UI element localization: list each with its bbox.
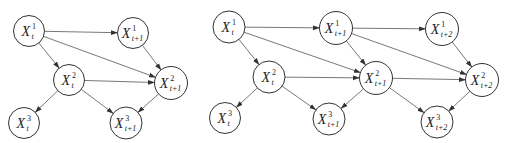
node-var-label: X — [61, 73, 71, 88]
node-x2-tplus1: X2t+1 — [360, 62, 393, 95]
node-group: X1tX1t+1X2tX2t+1X3tX3t+1 — [9, 16, 188, 140]
node-group: X1tX1t+1X1t+2X2tX2t+1X2t+2X3tX3t+1X3t+2 — [210, 11, 499, 138]
edge-b1-to-c1 — [353, 28, 426, 29]
dbn-diagrams: X1tX1t+1X2tX2t+1X3tX3t+1 X1tX1t+1X1t+2X2… — [0, 0, 506, 143]
node-x3-tplus1: X3t+1 — [110, 107, 142, 139]
node-var-label: X — [430, 22, 440, 37]
edge-c2-to-c3 — [449, 91, 470, 111]
edge-a2-to-a3 — [236, 88, 257, 108]
two-slice-dbn: X1tX1t+1X2tX2t+1X3tX3t+1 — [9, 16, 188, 140]
edge-a2-to-a3 — [35, 91, 58, 113]
edge-c1-to-c2 — [452, 42, 472, 67]
node-x1-tplus2: X1t+2 — [426, 13, 459, 46]
edge-a2-to-b3 — [81, 89, 113, 113]
node-var-label: X — [425, 115, 435, 130]
node-x3-tplus1: X3t+1 — [313, 103, 345, 135]
edge-a2-to-b2 — [285, 77, 360, 78]
node-x3-t: X3t — [210, 103, 241, 134]
edge-a1-to-b1 — [45, 31, 118, 32]
edge-b1-to-b2 — [142, 45, 161, 70]
node-superscript: 1 — [232, 18, 236, 27]
node-subscript: t+2 — [436, 123, 448, 132]
node-var-label: X — [21, 24, 31, 39]
node-subscript: t+1 — [125, 124, 137, 133]
node-subscript: t+1 — [328, 120, 340, 129]
node-var-label: X — [159, 76, 169, 91]
node-superscript: 3 — [125, 114, 129, 123]
edge-a2-to-b3 — [282, 86, 316, 110]
node-superscript: 2 — [170, 74, 174, 83]
node-x1-tplus1: X1t+1 — [320, 12, 353, 45]
node-var-label: X — [470, 73, 480, 88]
node-x2-t: X2t — [54, 65, 85, 96]
edge-b2-to-b3 — [138, 94, 159, 112]
three-slice-dbn: X1tX1t+1X1t+2X2tX2t+1X2t+2X3tX3t+1X3t+2 — [210, 11, 499, 138]
node-superscript: 2 — [72, 71, 76, 80]
node-superscript: 2 — [272, 68, 276, 77]
node-var-label: X — [364, 71, 374, 86]
node-superscript: 3 — [27, 114, 31, 123]
node-var-label: X — [121, 26, 131, 41]
node-superscript: 3 — [328, 110, 332, 119]
node-x3-t: X3t — [9, 108, 40, 139]
node-superscript: 1 — [32, 22, 36, 31]
node-var-label: X — [114, 116, 124, 131]
node-superscript: 2 — [375, 69, 379, 78]
edge-a1-to-a2 — [39, 43, 59, 68]
node-superscript: 1 — [335, 19, 339, 28]
node-var-label: X — [317, 112, 327, 127]
node-superscript: 3 — [436, 113, 440, 122]
edge-b2-to-b3 — [341, 89, 364, 109]
node-subscript: t+2 — [441, 30, 453, 39]
node-x1-t: X1t — [213, 11, 245, 43]
node-superscript: 2 — [481, 71, 485, 80]
node-x1-t: X1t — [14, 16, 45, 47]
node-var-label: X — [261, 70, 271, 85]
node-subscript: t+1 — [335, 29, 347, 38]
edge-a2-to-b2 — [84, 80, 154, 82]
node-var-label: X — [221, 20, 231, 35]
node-x2-tplus1: X2t+1 — [155, 67, 188, 100]
node-superscript: 1 — [441, 20, 445, 29]
node-subscript: t+2 — [481, 81, 493, 90]
node-subscript: t+1 — [375, 79, 387, 88]
edge-b1-to-b2 — [346, 41, 365, 65]
node-var-label: X — [217, 111, 227, 126]
node-x3-tplus2: X3t+2 — [421, 106, 453, 138]
node-x2-t: X2t — [253, 61, 285, 93]
node-subscript: t+1 — [132, 34, 144, 43]
edge-b2-to-c3 — [389, 88, 424, 113]
edge-b2-to-c2 — [393, 78, 466, 79]
node-superscript: 3 — [228, 109, 232, 118]
node-var-label: X — [16, 116, 26, 131]
node-subscript: t+1 — [170, 84, 182, 93]
edge-a1-to-a2 — [239, 39, 259, 64]
node-x1-tplus1: X1t+1 — [118, 18, 149, 49]
node-var-label: X — [324, 21, 334, 36]
node-x2-tplus2: X2t+2 — [466, 64, 499, 97]
edge-a1-to-b1 — [245, 27, 320, 28]
node-superscript: 1 — [132, 24, 136, 33]
